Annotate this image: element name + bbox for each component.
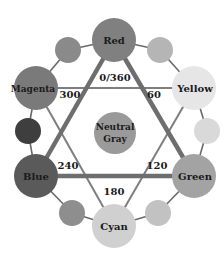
node-green-cyan	[145, 200, 171, 226]
hue-label-240: 240	[58, 160, 79, 171]
hue-label-180: 180	[104, 186, 125, 197]
label-neutral: Neutral	[96, 122, 135, 132]
color-wheel-diagram: Red Yellow Green Cyan Blue Magenta Neutr…	[0, 0, 224, 260]
node-red-yellow	[147, 37, 173, 63]
node-blue-magenta	[15, 118, 41, 144]
node-cyan-blue	[59, 200, 85, 226]
hue-label-0-360: 0/360	[99, 72, 131, 83]
label-red: Red	[103, 35, 125, 46]
label-green: Green	[178, 171, 213, 182]
label-blue: Blue	[23, 171, 49, 182]
node-yellow-green	[194, 118, 220, 144]
label-cyan: Cyan	[100, 221, 128, 232]
hue-label-300: 300	[60, 89, 81, 100]
label-magenta: Magenta	[11, 84, 56, 94]
node-magenta-red	[55, 37, 81, 63]
hue-label-120: 120	[147, 160, 168, 171]
label-gray: Gray	[103, 134, 127, 144]
node-neutral-gray	[94, 112, 136, 154]
label-yellow: Yellow	[176, 83, 213, 94]
hue-label-60: 60	[147, 89, 161, 100]
